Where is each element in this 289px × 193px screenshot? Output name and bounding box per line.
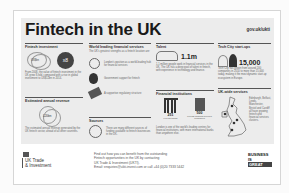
pound-coin-icon — [89, 125, 102, 138]
sprout-icon — [218, 55, 228, 67]
org-name-line2: & Investment — [25, 163, 51, 168]
circle-icon — [43, 109, 61, 127]
contact-email-line[interactable]: Email: enquiries@ukti-invest.com or call… — [94, 165, 184, 169]
section-title: Sources — [89, 117, 151, 123]
revenue-text: The estimated annual revenue generated b… — [25, 127, 83, 133]
people-icon — [156, 51, 178, 61]
revenue-section: Estimated annual revenue £20bn The estim… — [25, 97, 83, 133]
circle-icon — [31, 54, 51, 70]
list-item: London's position as a world-leading hub… — [89, 56, 151, 71]
contact-info: Find out how you can benefit from the ou… — [94, 152, 184, 170]
list-item: Government support for fintech — [89, 71, 151, 86]
investment-text: From 2008, the value of fintech investme… — [25, 71, 83, 81]
startups-text: Tech City has grown from around 200 comp… — [218, 67, 271, 80]
bank-icon — [164, 98, 178, 113]
brand-line3: GREAT — [248, 162, 272, 167]
list-item-text: Government support for fintech — [104, 77, 140, 80]
section-title: Financial institutions — [156, 90, 214, 96]
globe-icon — [89, 58, 100, 69]
uk-wide-text: Edinburgh, Belfast, Leeds, Manchester, B… — [249, 97, 271, 123]
business-is-great-logo: BUSINESS IS GREAT — [248, 152, 272, 167]
companies-label: Foreign financial services companies — [187, 115, 213, 119]
talent-section: Talent 1.1m 1.1 million people work in f… — [156, 43, 214, 73]
investment-section: Fintech investment US$bn x8 From 2008, t… — [25, 43, 83, 81]
startups-value: 15,000 — [239, 58, 260, 67]
money-bag-icon — [89, 73, 98, 84]
uk-wide-section: UK-wide services Edinburgh, Belfast, Lee… — [218, 88, 271, 138]
institutions-section: Financial institutions 251 Foreign banks… — [156, 90, 214, 136]
investment-badge-left: US$bn — [31, 59, 39, 62]
institutions-text: London is one of the world's leading cen… — [156, 126, 214, 136]
website-link[interactable]: gov.uk/ukti — [247, 27, 270, 32]
section-title: World leading financial services — [89, 43, 151, 49]
crest-icon — [23, 152, 29, 157]
list-item-text: A supportive regulatory structure — [104, 92, 141, 95]
infographic-panel: Fintech in the UK gov.uk/ukti Fintech in… — [21, 18, 274, 144]
financial-services-intro: The UK's greatest strengths as a fintech… — [89, 50, 151, 53]
revenue-value: £20bn — [43, 114, 51, 118]
sources-text: There are many different sources of fund… — [106, 127, 151, 137]
startups-section: Tech City start-ups 15,000 Tech City has… — [218, 43, 271, 80]
financial-services-section: World leading financial services The UK'… — [89, 43, 151, 100]
building-icon — [195, 98, 205, 111]
uk-map-icon — [220, 96, 248, 138]
page-title: Fintech in the UK — [25, 21, 161, 39]
infographic-card: Fintech in the UK gov.uk/ukti Fintech in… — [13, 10, 281, 185]
list-item-text: London's position as a world-leading hub… — [104, 61, 151, 67]
banks-label: Foreign banks — [158, 117, 184, 119]
talent-text: 1.1 million people work in financial ser… — [156, 63, 214, 73]
plant-icon — [229, 54, 237, 67]
sources-section: Sources There are many different sources… — [89, 117, 151, 138]
handshake-icon — [88, 87, 102, 99]
talent-value: 1.1m — [181, 53, 197, 60]
ukti-logo: UK Trade & Investment — [22, 152, 51, 168]
growth-badge: x8 — [57, 52, 74, 69]
list-item: A supportive regulatory structure — [89, 86, 151, 100]
